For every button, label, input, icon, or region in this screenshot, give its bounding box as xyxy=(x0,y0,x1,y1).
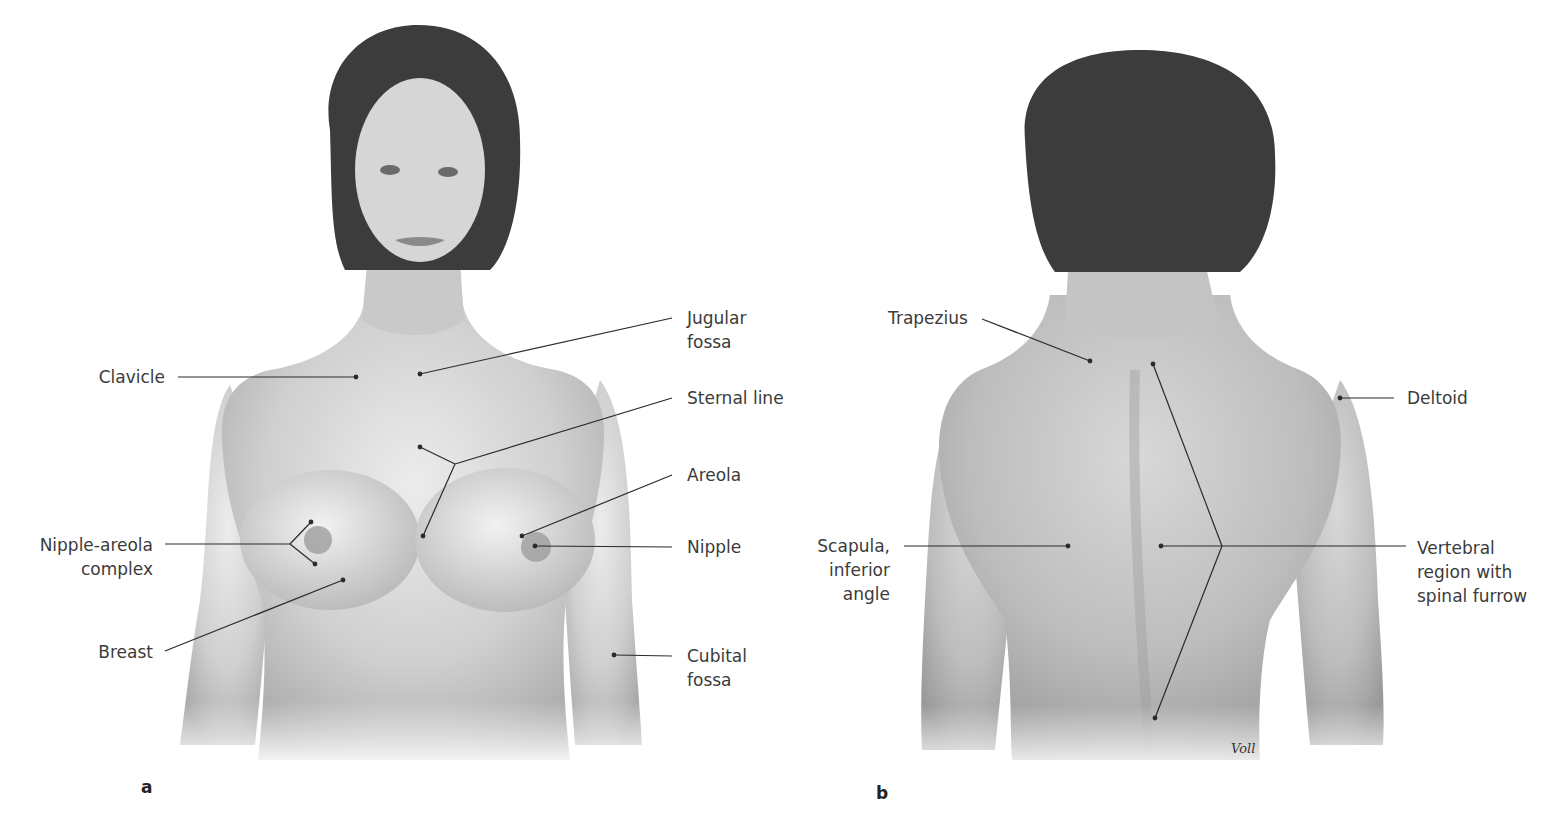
panel-letter-b: b xyxy=(876,783,888,803)
panel-letter-a: a xyxy=(141,777,152,797)
right-eye xyxy=(380,165,400,175)
label-sternal-line: Sternal line xyxy=(687,386,784,410)
panel-a-anterior-view: Clavicle Jugular fossa Sternal line Areo… xyxy=(0,0,780,833)
label-jugular-fossa-line-1: Jugular xyxy=(687,306,746,330)
label-cubital-fossa-line-2: fossa xyxy=(687,668,747,692)
label-jugular-fossa-line-2: fossa xyxy=(687,330,746,354)
label-nipple-areola-complex-line-2: complex xyxy=(10,557,153,581)
label-areola: Areola xyxy=(687,463,741,487)
label-nipple-areola-complex-line-1: Nipple-areola xyxy=(10,533,153,557)
label-cubital-fossa-line-1: Cubital xyxy=(687,644,747,668)
label-vertebral-line-3: spinal furrow xyxy=(1417,584,1527,608)
hair-back xyxy=(1025,50,1276,272)
label-trapezius: Trapezius xyxy=(888,306,968,330)
label-clavicle: Clavicle xyxy=(60,365,165,389)
label-nipple: Nipple xyxy=(687,535,741,559)
label-vertebral-line-2: region with xyxy=(1417,560,1527,584)
artist-signature: Voll xyxy=(1231,741,1255,756)
left-eye xyxy=(438,167,458,177)
label-scapula-line-1: Scapula, xyxy=(800,534,890,558)
posterior-body-illustration xyxy=(780,0,1559,833)
left-breast xyxy=(415,468,595,612)
label-cubital-fossa: Cubital fossa xyxy=(687,644,747,692)
panel-b-posterior-view: Trapezius Deltoid Scapula, inferior angl… xyxy=(780,0,1559,833)
label-scapula-line-2: inferior xyxy=(800,558,890,582)
right-areola xyxy=(304,526,332,554)
label-vertebral-line-1: Vertebral xyxy=(1417,536,1527,560)
label-scapula-line-3: angle xyxy=(800,582,890,606)
label-vertebral-region: Vertebral region with spinal furrow xyxy=(1417,536,1527,608)
label-deltoid: Deltoid xyxy=(1407,386,1468,410)
label-scapula-inferior-angle: Scapula, inferior angle xyxy=(800,534,890,606)
face xyxy=(355,78,485,262)
label-jugular-fossa: Jugular fossa xyxy=(687,306,746,354)
anterior-body-illustration xyxy=(0,0,780,833)
label-breast: Breast xyxy=(60,640,153,664)
label-nipple-areola-complex: Nipple-areola complex xyxy=(10,533,153,581)
